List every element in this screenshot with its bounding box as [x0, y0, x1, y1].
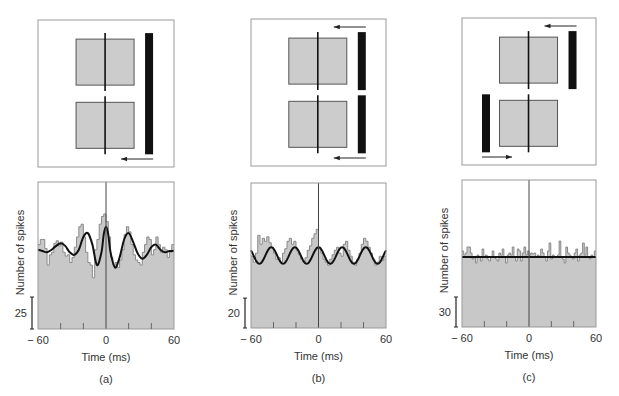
panel-a: Number of spikes Time (ms) (a) 25 − 60 0… [14, 20, 180, 385]
panel-c: Number of spikes Time (ms) (c) 30 − 60 0… [438, 18, 602, 383]
stimulus-diagram-a [38, 20, 174, 167]
x-tick-label-min-c: − 60 [451, 332, 473, 344]
histogram-c [454, 180, 596, 327]
panel-b: Number of spikes Time (ms) (b) 20 − 60 0… [227, 19, 392, 384]
panel-label-c: (c) [523, 371, 536, 383]
moving-bar-2-b [358, 95, 366, 153]
y-axis-label-c: Number of spikes [438, 207, 450, 293]
scale-bar-label-a: 25 [15, 307, 27, 319]
scale-bar-label-c: 30 [439, 306, 451, 318]
x-tick-label-max-a: 60 [168, 334, 180, 346]
x-axis-label-b: Time (ms) [294, 350, 343, 362]
figure: Number of spikes Time (ms) (a) 25 − 60 0… [0, 0, 619, 396]
panel-label-a: (a) [99, 373, 112, 385]
y-axis-label-a: Number of spikes [14, 209, 26, 295]
x-tick-label-max-c: 60 [590, 332, 602, 344]
moving-bar-1-a [145, 33, 153, 154]
x-tick-label-zero-b: 0 [315, 333, 321, 345]
moving-bar-1-b [358, 32, 366, 90]
x-tick-label-zero-c: 0 [526, 332, 532, 344]
y-axis-label-b: Number of spikes [227, 209, 239, 295]
x-tick-label-min-b: − 60 [240, 333, 262, 345]
x-axis-label-c: Time (ms) [504, 349, 553, 361]
x-tick-label-max-b: 60 [380, 333, 392, 345]
x-tick-label-zero-a: 0 [103, 334, 109, 346]
stimulus-diagram-c [462, 18, 596, 165]
x-tick-label-min-a: − 60 [27, 334, 49, 346]
scale-bar-label-b: 20 [228, 307, 240, 319]
stimulus-diagram-b [251, 19, 386, 166]
x-axis-label-a: Time (ms) [81, 351, 130, 363]
moving-bar-2-c [482, 94, 490, 152]
panel-label-b: (b) [312, 372, 325, 384]
moving-bar-1-c [569, 31, 577, 89]
histogram-a [30, 182, 174, 329]
histogram-b [243, 183, 386, 328]
